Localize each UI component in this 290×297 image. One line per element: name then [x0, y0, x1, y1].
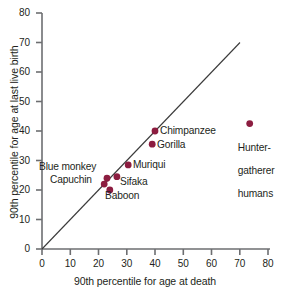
identity-reference-line	[42, 43, 240, 250]
data-point-hunter-gatherer-humans	[246, 120, 253, 127]
y-axis-ticks	[36, 13, 42, 249]
x-axis-ticks	[42, 249, 268, 255]
point-label-baboon: Baboon	[105, 190, 139, 202]
scatter-chart: 0 10 20 30 40 50 60 70 80 0 10 20 30 40 …	[0, 0, 290, 297]
x-tick-label-40: 40	[143, 258, 167, 269]
point-label-blue-monkey: Blue monkey	[39, 161, 96, 173]
hunter-gatherer-line-3: humans	[238, 188, 273, 199]
data-point-gorilla	[149, 141, 156, 148]
x-tick-label-10: 10	[58, 258, 82, 269]
point-label-muriqui: Muriqui	[133, 159, 165, 171]
data-point-blue-monkey	[104, 175, 111, 182]
point-label-capuchin: Capuchin	[50, 174, 92, 186]
data-point-muriqui	[125, 162, 132, 169]
x-tick-label-0: 0	[30, 258, 54, 269]
x-tick-label-80: 80	[256, 258, 280, 269]
data-point-capuchin	[101, 181, 108, 188]
point-label-chimpanzee: Chimpanzee	[160, 125, 216, 137]
point-label-sifaka: Sifaka	[120, 176, 147, 188]
y-axis-title: 90th percentile for age at last live bir…	[8, 12, 20, 252]
point-label-hunter-gatherer-humans: Hunter- gatherer humans	[227, 130, 274, 211]
x-tick-label-50: 50	[171, 258, 195, 269]
x-tick-label-60: 60	[200, 258, 224, 269]
point-label-gorilla: Gorilla	[157, 139, 185, 151]
x-axis-title: 90th percentile for age at death	[0, 275, 290, 287]
hunter-gatherer-line-1: Hunter-	[238, 142, 271, 153]
x-tick-label-20: 20	[87, 258, 111, 269]
x-tick-label-70: 70	[228, 258, 252, 269]
x-tick-label-30: 30	[115, 258, 139, 269]
hunter-gatherer-line-2: gatherer	[238, 165, 275, 176]
data-point-chimpanzee	[152, 128, 159, 135]
